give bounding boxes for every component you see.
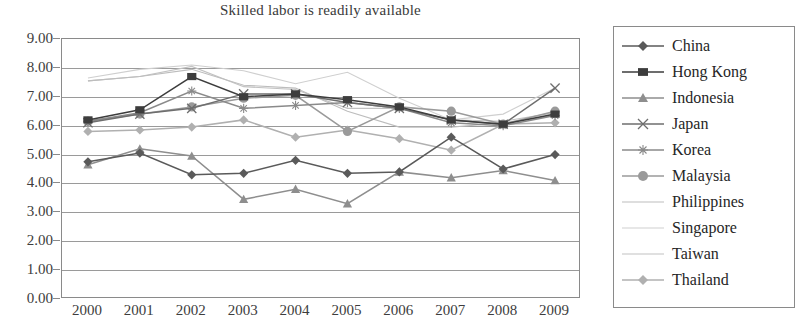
data-point-square [499,121,508,128]
data-point-square [343,96,352,103]
legend-item-singapore[interactable]: Singapore [620,215,794,241]
data-point-square [83,116,92,123]
legend-item-malaysia[interactable]: Malaysia [620,163,794,189]
data-point-diamond [638,41,648,51]
data-point-star [187,86,196,95]
series-layer [62,39,581,299]
legend-swatch-diamond-icon [620,36,666,56]
legend-item-korea[interactable]: Korea [620,137,794,163]
data-point-star [239,104,248,113]
data-point-square [239,93,248,100]
data-point-square [291,90,300,97]
x-axis-tick-label: 2007 [435,302,465,319]
y-axis-tick-label: 3.00 [27,203,53,220]
series-hong-kong [83,73,559,128]
y-axis-tick-mark [53,240,60,241]
data-point-square [638,68,648,76]
legend-swatch-line-icon [620,218,666,238]
legend-swatch-square-icon [620,62,666,82]
legend-item-taiwan[interactable]: Taiwan [620,241,794,267]
legend-item-label: Malaysia [672,167,731,185]
legend-item-label: Philippines [672,193,744,211]
data-point-diamond [187,123,196,132]
y-axis-tick-mark [53,125,60,126]
data-point-diamond [291,133,300,142]
data-point-diamond [447,146,456,155]
data-point-diamond [638,275,648,285]
x-axis-tick-label: 2001 [124,302,154,319]
y-axis-tick-label: 0.00 [27,290,53,307]
data-point-diamond [135,125,144,134]
y-axis-tick-mark [53,298,60,299]
legend-item-label: Taiwan [672,245,719,263]
legend-swatch-star-icon [620,140,666,160]
legend-swatch-diamond-icon [620,270,666,290]
data-point-square [447,116,456,123]
y-axis-tick-label: 6.00 [27,116,53,133]
legend-item-label: Indonesia [672,89,734,107]
data-point-square [135,106,144,113]
legend-item-china[interactable]: China [620,33,794,59]
data-point-star [291,101,300,110]
legend-item-thailand[interactable]: Thailand [620,267,794,293]
chart-container: Skilled labor is readily available 0.001… [0,0,801,335]
y-axis-tick-label: 2.00 [27,232,53,249]
data-point-star [638,145,648,155]
legend-item-label: Japan [672,115,708,133]
x-axis-tick-label: 2008 [487,302,517,319]
data-point-diamond [83,157,92,166]
data-point-diamond [343,169,352,178]
x-axis-tick-label: 2004 [280,302,310,319]
legend-item-label: China [672,37,710,55]
legend-item-label: Korea [672,141,711,159]
data-point-diamond [550,150,559,159]
legend-swatch-cross-icon [620,114,666,134]
x-axis-tick-label: 2000 [72,302,102,319]
data-point-square [395,103,404,110]
y-axis-tick-mark [53,96,60,97]
data-point-diamond [187,170,196,179]
y-axis-tick-mark [53,38,60,39]
plot-area [61,38,580,298]
y-axis-tick-mark [53,269,60,270]
y-axis-tick-label: 8.00 [27,58,53,75]
y-axis-tick-mark [53,211,60,212]
legend-item-label: Hong Kong [672,63,747,81]
y-axis-tick-label: 9.00 [27,30,53,47]
chart-title: Skilled labor is readily available [61,2,580,19]
legend-item-philippines[interactable]: Philippines [620,189,794,215]
data-point-circle [638,171,648,181]
data-point-diamond [447,133,456,142]
x-axis-tick-label: 2009 [539,302,569,319]
y-axis-tick-label: 5.00 [27,145,53,162]
data-point-diamond [395,134,404,143]
data-point-diamond [83,127,92,136]
data-point-diamond [239,115,248,124]
series-line [88,137,555,175]
y-axis: 0.001.002.003.004.005.006.007.008.009.00 [0,38,57,298]
legend-item-label: Thailand [672,271,729,289]
series-line [88,88,555,124]
legend-item-indonesia[interactable]: Indonesia [620,85,794,111]
series-line [88,77,555,125]
y-axis-tick-label: 7.00 [27,87,53,104]
legend-swatch-line-icon [620,244,666,264]
x-axis: 2000200120022003200420052006200720082009 [61,300,580,330]
legend-item-japan[interactable]: Japan [620,111,794,137]
legend-item-label: Singapore [672,219,737,237]
y-axis-tick-label: 4.00 [27,174,53,191]
x-axis-tick-label: 2005 [331,302,361,319]
series-line [88,95,555,131]
y-axis-tick-mark [53,182,60,183]
legend-swatch-triangle-icon [620,88,666,108]
data-point-cross [550,84,559,93]
data-point-circle [447,107,456,116]
x-axis-tick-label: 2006 [383,302,413,319]
legend-item-hong-kong[interactable]: Hong Kong [620,59,794,85]
legend-swatch-line-icon [620,192,666,212]
data-point-triangle [291,185,300,193]
series-indonesia [83,144,559,207]
x-axis-tick-label: 2003 [228,302,258,319]
data-point-square [187,73,196,80]
data-point-diamond [239,169,248,178]
